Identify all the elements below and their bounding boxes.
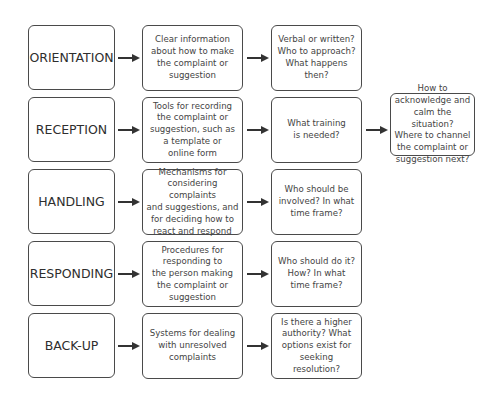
arrow-right-icon [247, 273, 267, 275]
arrow-right-icon [118, 129, 138, 131]
stage-box-back-up: BACK-UP [28, 313, 115, 378]
question-text: Is there a higher authority? What option… [275, 317, 358, 376]
question-box-back-up: Is there a higher authority? What option… [271, 313, 362, 379]
description-box-orientation: Clear information about how to make the … [142, 25, 243, 91]
stage-label: RECEPTION [36, 122, 107, 137]
question-box-orientation: Verbal or written? Who to approach? What… [271, 25, 362, 91]
stage-label: ORIENTATION [29, 50, 113, 65]
description-text: Clear information about how to make the … [151, 34, 234, 81]
question-box-handling: Who should be involved? In what time fra… [271, 169, 362, 235]
description-text: Mechanisms for considering complaints an… [146, 167, 239, 238]
stage-label: RESPONDING [30, 266, 114, 281]
description-text: Procedures for responding to the person … [152, 245, 233, 304]
description-text: Tools for recording the complaint or sug… [150, 101, 235, 160]
arrow-right-icon [118, 273, 138, 275]
description-box-handling: Mechanisms for considering complaints an… [142, 169, 243, 235]
stage-box-handling: HANDLING [28, 169, 115, 234]
question-box-reception: What training is needed? [271, 97, 362, 163]
question-text: Verbal or written? Who to approach? What… [275, 34, 358, 81]
arrow-right-icon [247, 201, 267, 203]
stage-label: HANDLING [38, 194, 105, 209]
arrow-right-icon [247, 129, 267, 131]
stage-box-responding: RESPONDING [28, 241, 115, 306]
arrow-right-icon [118, 57, 138, 59]
arrow-right-icon [247, 345, 267, 347]
arrow-right-icon [118, 345, 138, 347]
arrow-right-icon [118, 201, 138, 203]
followup-text: How to acknowledge and calm the situatio… [393, 83, 472, 166]
question-box-responding: Who should do it? How? In what time fram… [271, 241, 362, 307]
description-box-back-up: Systems for dealing with unresolved comp… [142, 313, 243, 379]
followup-box-reception: How to acknowledge and calm the situatio… [390, 93, 475, 156]
question-text: Who should be involved? In what time fra… [279, 184, 355, 219]
description-box-reception: Tools for recording the complaint or sug… [142, 97, 243, 163]
description-box-responding: Procedures for responding to the person … [142, 241, 243, 307]
arrow-right-icon [247, 57, 267, 59]
stage-label: BACK-UP [45, 338, 99, 353]
description-text: Systems for dealing with unresolved comp… [150, 328, 236, 363]
question-text: What training is needed? [287, 118, 346, 142]
stage-box-reception: RECEPTION [28, 97, 115, 162]
stage-box-orientation: ORIENTATION [28, 25, 115, 90]
arrow-right-icon [366, 129, 386, 131]
question-text: Who should do it? How? In what time fram… [278, 256, 355, 291]
